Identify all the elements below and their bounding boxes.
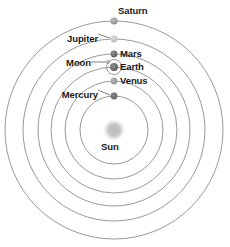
label-saturn: Saturn — [118, 5, 148, 16]
sun-glyph — [103, 119, 125, 141]
planet-dot-moon — [106, 60, 110, 64]
label-jupiter: Jupiter — [0, 33, 98, 44]
label-sun: Sun — [101, 141, 119, 152]
label-venus: Venus — [120, 75, 148, 86]
planet-dot-mercury — [111, 93, 118, 100]
planet-dot-jupiter — [111, 36, 118, 43]
planet-dot-earth — [110, 63, 118, 71]
label-mercury: Mercury — [0, 89, 98, 100]
planet-dot-mars — [111, 51, 118, 58]
solar-system-diagram: Saturn Jupiter Mars Moon Earth Venus Mer… — [0, 0, 230, 247]
label-moon: Moon — [0, 57, 91, 68]
planet-dot-venus — [111, 78, 118, 85]
label-earth: Earth — [120, 61, 144, 72]
leader-line-jupiter — [98, 34, 110, 38]
planet-dot-saturn — [110, 17, 117, 24]
leader-line-mercury — [98, 90, 110, 95]
label-mars: Mars — [120, 48, 142, 59]
